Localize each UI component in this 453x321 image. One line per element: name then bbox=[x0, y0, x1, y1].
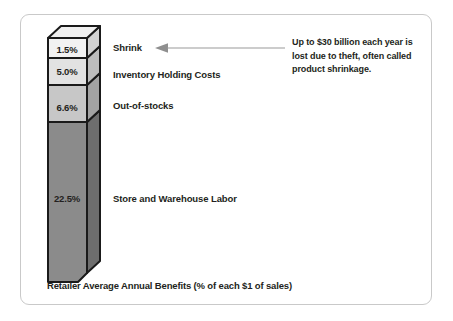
segment-value-out-of-stocks: 6.6% bbox=[47, 103, 87, 113]
stacked-column-chart bbox=[47, 22, 103, 274]
chart-figure: 1.5% 5.0% 6.6% 22.5% Shrink Inventory Ho… bbox=[0, 0, 453, 321]
segment-value-shrink: 1.5% bbox=[47, 45, 87, 55]
segment-value-store-and-warehouse-labor: 22.5% bbox=[47, 194, 87, 204]
chart-caption: Retailer Average Annual Benefits (% of e… bbox=[47, 281, 292, 291]
callout-text: Up to $30 billion each year is lost due … bbox=[292, 36, 427, 77]
arrow-left-icon bbox=[155, 43, 168, 53]
category-label-store-and-warehouse-labor: Store and Warehouse Labor bbox=[113, 194, 237, 204]
segment-value-inventory-holding-costs: 5.0% bbox=[47, 67, 87, 77]
category-label-shrink: Shrink bbox=[113, 43, 142, 53]
category-label-out-of-stocks: Out-of-stocks bbox=[113, 101, 173, 111]
callout-leader-line bbox=[155, 40, 285, 52]
category-label-inventory-holding-costs: Inventory Holding Costs bbox=[113, 70, 220, 80]
